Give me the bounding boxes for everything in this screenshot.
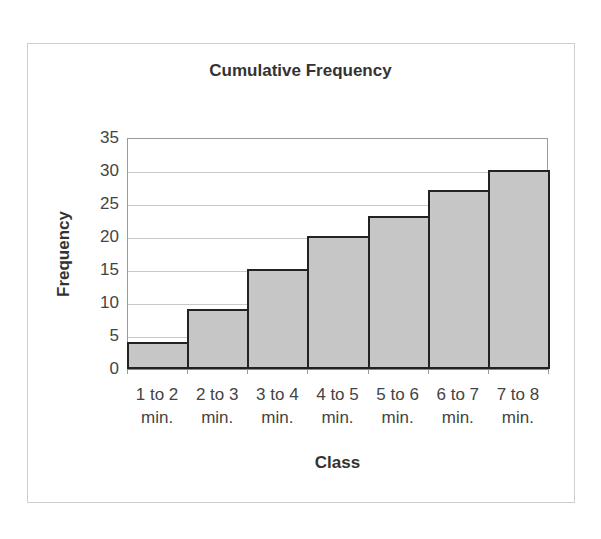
x-tick-label: 6 to 7min.: [428, 383, 488, 429]
x-axis-line: [127, 369, 548, 370]
x-tick-label: 5 to 6min.: [368, 383, 428, 429]
bar: [127, 342, 189, 369]
y-tick-label: 5: [79, 326, 119, 346]
y-tick-label: 10: [79, 293, 119, 313]
plot-area: [127, 138, 548, 369]
bar: [247, 269, 309, 369]
bar: [307, 236, 369, 369]
x-tick-mark: [127, 369, 128, 374]
x-tick-label: 2 to 3min.: [187, 383, 247, 429]
x-tick-label-line: 2 to 3: [187, 383, 247, 406]
bar: [368, 216, 430, 369]
x-tick-mark: [428, 369, 429, 374]
bar: [488, 170, 550, 369]
x-tick-label-line: min.: [308, 406, 368, 429]
y-tick-label: 35: [79, 128, 119, 148]
x-tick-mark: [247, 369, 248, 374]
y-axis-label: Frequency: [54, 211, 74, 297]
bar: [428, 190, 490, 369]
bar: [187, 309, 249, 369]
x-tick-mark: [488, 369, 489, 374]
y-tick-label: 30: [79, 161, 119, 181]
x-tick-label: 7 to 8min.: [488, 383, 548, 429]
x-tick-label-line: min.: [428, 406, 488, 429]
x-tick-label-line: 3 to 4: [247, 383, 307, 406]
x-axis-label: Class: [127, 453, 548, 473]
x-tick-mark: [307, 369, 308, 374]
y-tick-label: 25: [79, 194, 119, 214]
x-tick-label-line: 5 to 6: [368, 383, 428, 406]
x-tick-label-line: min.: [368, 406, 428, 429]
x-tick-label-line: 1 to 2: [127, 383, 187, 406]
y-tick-label: 20: [79, 227, 119, 247]
x-tick-label: 3 to 4min.: [247, 383, 307, 429]
x-tick-label-line: 4 to 5: [308, 383, 368, 406]
x-tick-mark: [548, 369, 549, 374]
x-tick-label-line: min.: [488, 406, 548, 429]
x-tick-label-line: min.: [127, 406, 187, 429]
chart-title: Cumulative Frequency: [0, 61, 601, 81]
y-tick-label: 15: [79, 260, 119, 280]
x-tick-label: 4 to 5min.: [308, 383, 368, 429]
x-tick-label-line: 7 to 8: [488, 383, 548, 406]
x-tick-label: 1 to 2min.: [127, 383, 187, 429]
x-tick-label-line: min.: [187, 406, 247, 429]
x-tick-mark: [187, 369, 188, 374]
x-tick-label-line: 6 to 7: [428, 383, 488, 406]
x-tick-mark: [368, 369, 369, 374]
x-tick-label-line: min.: [247, 406, 307, 429]
y-tick-label: 0: [79, 359, 119, 379]
gridline: [128, 172, 547, 173]
